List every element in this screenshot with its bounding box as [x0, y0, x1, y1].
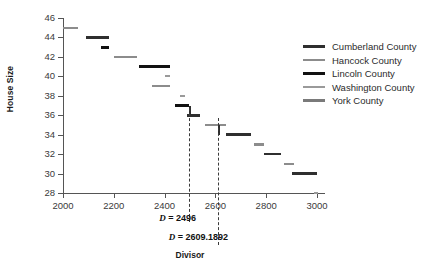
step-segment — [292, 172, 317, 175]
y-tick-label-wrap: 28 — [33, 188, 55, 197]
step-segment — [86, 36, 109, 39]
y-tick-label: 36 — [33, 110, 55, 119]
step-segment — [226, 133, 251, 136]
legend-label: Hancock County — [332, 55, 402, 66]
divisor-line-2 — [218, 118, 219, 245]
x-tick-label: 2600 — [195, 200, 235, 211]
y-tick-label: 40 — [33, 71, 55, 80]
x-tick — [266, 193, 267, 198]
x-tick — [215, 193, 216, 198]
legend-swatch-line-icon — [303, 45, 325, 48]
y-axis-label: House Size — [5, 58, 15, 120]
legend-item[interactable]: Hancock County — [303, 54, 417, 68]
x-axis-line — [63, 193, 325, 194]
legend-label: York County — [332, 95, 383, 106]
divisor-line-2-label: D = 2609.1892 — [0, 232, 228, 242]
x-tick-label: 2400 — [145, 200, 185, 211]
y-tick-label-wrap: 46 — [33, 13, 55, 22]
legend-swatch-line-icon — [303, 99, 325, 102]
step-segment — [254, 143, 264, 145]
x-tick — [165, 193, 166, 198]
x-tick-label: 2000 — [43, 200, 83, 211]
y-tick-label-wrap: 38 — [33, 91, 55, 100]
y-tick-label: 38 — [33, 91, 55, 100]
y-tick-label-wrap: 30 — [33, 169, 55, 178]
step-segment — [114, 56, 137, 58]
y-tick-label: 46 — [33, 13, 55, 22]
y-tick-label-wrap: 40 — [33, 71, 55, 80]
divisor-line-1 — [189, 108, 190, 222]
step-segment — [314, 192, 318, 194]
step-segment — [139, 65, 169, 68]
y-tick-label: 28 — [33, 188, 55, 197]
x-axis-label: Divisor — [150, 250, 230, 260]
step-segment — [284, 163, 294, 165]
y-tick-label-wrap: 34 — [33, 130, 55, 139]
divisor-line-1-label: D = 2496 — [0, 213, 196, 223]
legend: Cumberland CountyHancock CountyLincoln C… — [303, 40, 417, 108]
step-segment — [165, 75, 170, 77]
legend-item[interactable]: Lincoln County — [303, 67, 417, 81]
y-tick-label: 30 — [33, 169, 55, 178]
y-tick-label: 44 — [33, 32, 55, 41]
y-tick-label: 32 — [33, 149, 55, 158]
x-tick — [114, 193, 115, 198]
legend-label: Washington County — [332, 82, 415, 93]
step-segment — [264, 153, 282, 156]
legend-label: Lincoln County — [332, 68, 395, 79]
legend-swatch-line-icon — [303, 59, 325, 61]
y-tick-label-wrap: 32 — [33, 149, 55, 158]
legend-label: Cumberland County — [332, 41, 417, 52]
legend-item[interactable]: Washington County — [303, 81, 417, 95]
legend-swatch-line-icon — [303, 86, 325, 88]
step-segment — [63, 27, 78, 29]
step-segment — [175, 104, 189, 107]
legend-swatch-line-icon — [303, 72, 325, 75]
step-segment — [101, 46, 109, 49]
y-tick-label-wrap: 44 — [33, 32, 55, 41]
legend-item[interactable]: York County — [303, 94, 417, 108]
x-tick-label: 2200 — [94, 200, 134, 211]
y-tick-label: 34 — [33, 130, 55, 139]
legend-item[interactable]: Cumberland County — [303, 40, 417, 54]
x-tick-label: 2800 — [246, 200, 286, 211]
y-tick-label-wrap: 36 — [33, 110, 55, 119]
step-segment — [205, 124, 225, 126]
x-tick — [63, 193, 64, 198]
x-tick-label: 3000 — [297, 200, 337, 211]
plot-area — [63, 18, 317, 193]
chart-figure: House Size Divisor 28303234363840424446 … — [0, 0, 438, 273]
step-segment — [180, 95, 185, 97]
y-tick-label-wrap: 42 — [33, 52, 55, 61]
y-tick-label: 42 — [33, 52, 55, 61]
step-segment — [152, 85, 170, 87]
